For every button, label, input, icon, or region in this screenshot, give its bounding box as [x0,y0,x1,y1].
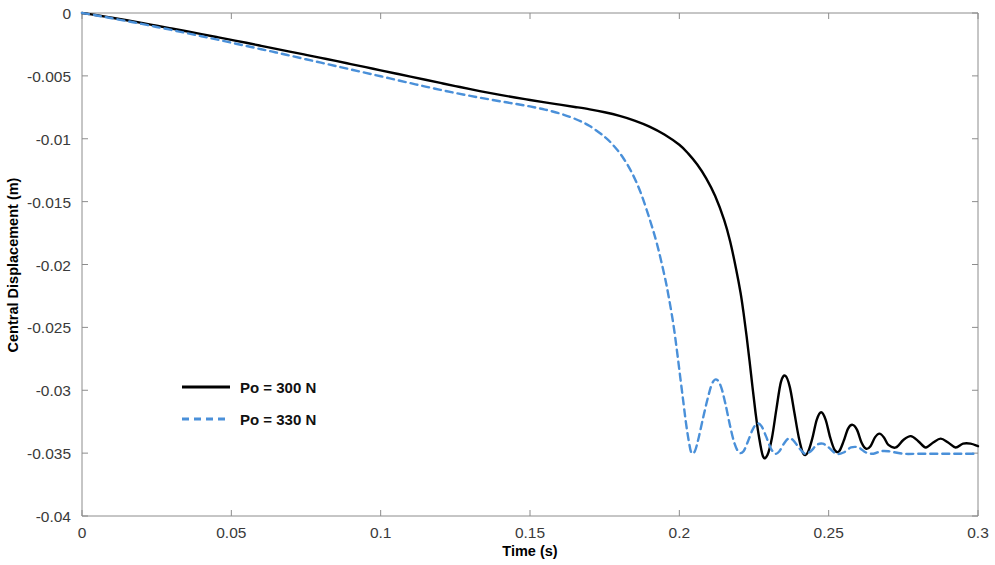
figure-container: 00.050.10.150.20.250.3 0-0.005-0.01-0.01… [0,0,995,565]
y-axis-title: Central Displacement (m) [5,177,21,352]
legend: Po = 300 N Po = 330 N [182,379,316,428]
x-tick-label: 0.2 [669,524,691,541]
y-tick-label: -0.025 [27,319,71,336]
x-axis-tick-labels: 00.050.10.150.20.250.3 [78,524,989,541]
legend-label-po-330: Po = 330 N [240,411,316,428]
y-tick-label: -0.01 [36,131,71,148]
x-axis-title: Time (s) [502,543,558,559]
series-line-1 [82,13,978,458]
x-tick-label: 0 [78,524,87,541]
displacement-time-chart: 00.050.10.150.20.250.3 0-0.005-0.01-0.01… [0,0,995,565]
x-tick-label: 0.3 [967,524,989,541]
y-axis-tick-labels: 0-0.005-0.01-0.015-0.02-0.025-0.03-0.035… [27,5,71,525]
y-tick-label: -0.04 [36,508,72,525]
y-tick-label: -0.03 [36,382,71,399]
y-tick-label: -0.02 [36,257,71,274]
x-tick-label: 0.25 [814,524,844,541]
data-series-group [82,13,978,458]
x-tick-label: 0.05 [216,524,246,541]
y-tick-label: -0.015 [27,194,71,211]
x-tick-label: 0.15 [515,524,545,541]
x-tick-label: 0.1 [370,524,392,541]
y-tick-label: -0.035 [27,445,71,462]
legend-label-po-300: Po = 300 N [240,379,316,396]
y-tick-label: -0.005 [27,68,71,85]
y-tick-label: 0 [62,5,71,22]
